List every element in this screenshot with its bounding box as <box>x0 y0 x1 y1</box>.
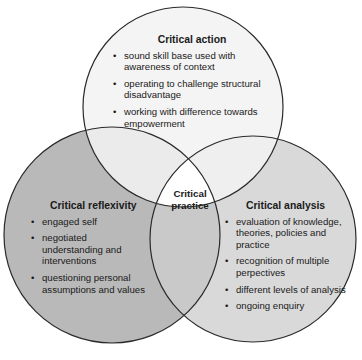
center-line-2: practice <box>158 200 222 212</box>
list-item: evaluation of knowledge, theories, polic… <box>236 216 354 251</box>
critical-reflexivity-block: Critical reflexivity engaged self negoti… <box>32 200 150 300</box>
list-item: different levels of analysis <box>236 284 354 296</box>
critical-action-title: Critical action <box>112 34 272 46</box>
list-item: engaged self <box>42 216 150 228</box>
critical-reflexivity-list: engaged self negotiated understanding an… <box>32 216 150 296</box>
list-item: ongoing enquiry <box>236 300 354 312</box>
critical-reflexivity-title: Critical reflexivity <box>32 200 150 212</box>
center-line-1: Critical <box>158 188 222 200</box>
list-item: operating to challenge structural disadv… <box>124 78 272 101</box>
list-item: questioning personal assumptions and val… <box>42 272 150 295</box>
critical-analysis-block: Critical analysis evaluation of knowledg… <box>226 200 354 317</box>
critical-analysis-list: evaluation of knowledge, theories, polic… <box>226 216 354 312</box>
critical-action-list: sound skill base used with awareness of … <box>112 50 272 130</box>
list-item: sound skill base used with awareness of … <box>124 50 272 73</box>
list-item: negotiated understanding and interventio… <box>42 232 150 267</box>
list-item: working with difference towards empowerm… <box>124 106 272 129</box>
critical-practice-label: Critical practice <box>158 188 222 212</box>
critical-action-block: Critical action sound skill base used wi… <box>112 34 272 134</box>
list-item: recognition of multiple perpectives <box>236 255 354 278</box>
critical-analysis-title: Critical analysis <box>226 200 354 212</box>
